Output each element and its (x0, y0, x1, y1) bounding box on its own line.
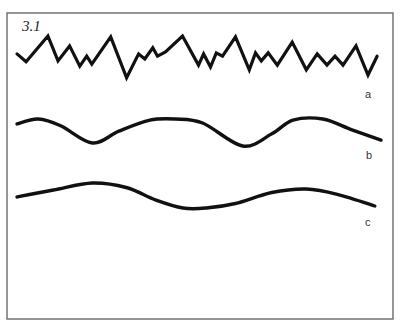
trace-c-waveform (17, 183, 375, 209)
trace-b-waveform (17, 118, 381, 146)
trace-a-waveform (17, 36, 377, 78)
trace-c-label: c (365, 216, 371, 228)
figure: 3.1 a b c (0, 0, 402, 325)
figure-number-label: 3.1 (21, 18, 41, 34)
trace-b-label: b (366, 149, 372, 161)
trace-a-label: a (365, 88, 372, 100)
